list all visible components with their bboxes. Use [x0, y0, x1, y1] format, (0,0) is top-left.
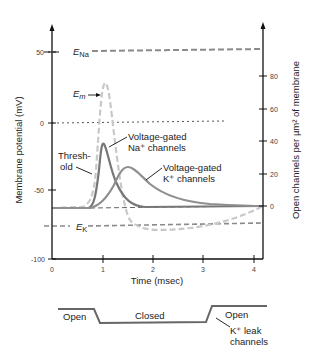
y2-tick: 0: [270, 203, 274, 210]
k-channel-label: Voltage-gated: [163, 162, 222, 173]
y-axis-label: Membrane potential (mV): [13, 96, 24, 203]
x-tick: 0: [50, 266, 54, 273]
na-channel-label: Na⁺ channels: [128, 142, 186, 153]
na-arrow: [109, 137, 127, 147]
ek-label: EK: [76, 221, 87, 234]
x-tick: 1: [101, 266, 105, 273]
x-tick: 2: [151, 266, 155, 273]
em-label: Em: [73, 88, 86, 101]
na-channel-label: Voltage-gated: [128, 131, 187, 142]
y2-tick: 40: [270, 138, 278, 145]
leak-state-closed: Closed: [135, 310, 165, 321]
k-channel-curve: [52, 167, 263, 208]
threshold-label: Thresh-: [58, 150, 91, 161]
leak-state-open: Open: [225, 309, 248, 320]
ena-line: [92, 49, 263, 51]
y2-tick: 80: [270, 73, 278, 80]
threshold-arrow: [76, 167, 92, 174]
x-tick: 4: [252, 266, 256, 273]
x-axis-label: Time (msec): [131, 275, 183, 286]
leak-label: K⁺ leak: [230, 325, 262, 336]
y-tick: -100: [31, 256, 45, 263]
y-tick: 0: [40, 120, 44, 127]
threshold-label: old: [60, 161, 73, 172]
ek-line: [88, 223, 263, 226]
leak-label: channels: [230, 336, 268, 347]
x-tick: 3: [201, 266, 205, 273]
ena-label: ENa: [73, 46, 90, 59]
y2-axis-label: Open channels per µm² of membrane: [290, 61, 301, 219]
leak-state-open: Open: [63, 311, 86, 322]
y2-tick: 60: [270, 106, 278, 113]
action-potential-figure: 50 0 -50 -100 0 1 2 3 4 80 60 40 20 0 Ti…: [0, 0, 316, 357]
k-channel-label: K⁺ channels: [163, 173, 215, 184]
y-axis-arrow-icon: [50, 24, 55, 31]
y-tick: 50: [36, 49, 44, 56]
k-arrow: [146, 168, 162, 180]
y2-axis-arrow-icon: [261, 22, 266, 29]
em-arrowhead-icon: [96, 93, 101, 97]
y2-tick: 20: [270, 171, 278, 178]
zero-line: [52, 121, 225, 123]
y-tick: -50: [34, 187, 44, 194]
